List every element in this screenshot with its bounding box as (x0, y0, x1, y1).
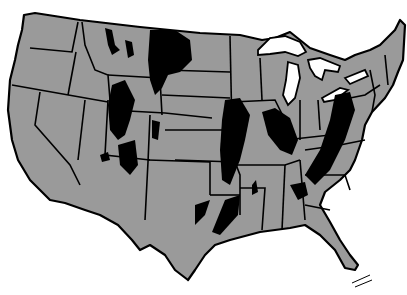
us-landmass (8, 13, 405, 280)
us-map (0, 0, 407, 295)
signature-mark (352, 275, 372, 287)
